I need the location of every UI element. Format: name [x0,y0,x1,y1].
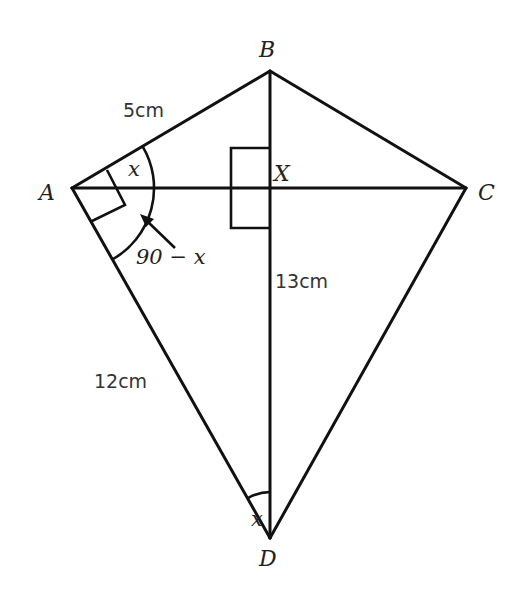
length-label-ab: 5cm [123,99,164,121]
vertex-label-x: X [272,161,291,186]
kite-diagram: B A C X D x 90 − x x 5cm 13cm 12cm [0,0,515,593]
length-label-ad: 12cm [94,370,147,392]
arrow-line [147,221,175,248]
vertex-label-c: C [478,180,495,205]
edge-ab [72,71,270,188]
edge-cd [270,188,466,538]
length-label-bd: 13cm [275,270,328,292]
angle-label-adb: x [251,507,263,531]
vertex-label-a: A [37,180,55,205]
vertex-label-d: D [258,546,277,571]
angle-label-cad: 90 − x [136,245,206,269]
angle-arc-d [248,492,271,498]
edge-bc [270,71,466,188]
angle-label-bac: x [128,157,140,181]
edge-da [72,188,270,538]
vertex-label-b: B [258,37,275,62]
right-angle-marker-a [90,170,125,222]
